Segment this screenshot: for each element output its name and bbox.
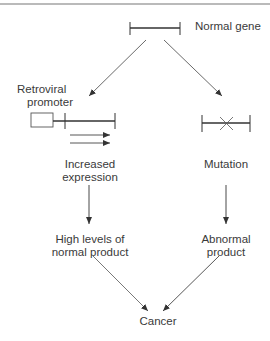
high-levels-label: High levels of normal product [52, 233, 129, 259]
increased-expression-label: Increased expression [62, 158, 118, 184]
cancer-label: Cancer [139, 315, 176, 328]
high-levels-line2: normal product [52, 246, 129, 259]
normal-gene-label: Normal gene [195, 20, 261, 33]
transcription-arrows-icon [70, 135, 110, 143]
increased-expression-line2: expression [62, 171, 118, 184]
mutation-label: Mutation [204, 158, 248, 171]
arrow-abnormal-to-cancer [163, 256, 219, 311]
high-levels-line1: High levels of [52, 233, 129, 246]
arrow-to-mutation [164, 40, 222, 96]
increased-expression-line1: Increased [62, 158, 118, 171]
retroviral-promoter-line1: Retroviral [17, 83, 73, 96]
retroviral-promoter-label: Retroviral promoter [17, 83, 73, 109]
mutated-gene-icon [202, 115, 250, 132]
normal-gene-icon [130, 22, 180, 35]
abnormal-product-line2: product [201, 246, 250, 259]
abnormal-product-line1: Abnormal [201, 233, 250, 246]
promoter-insertion-icon [31, 113, 115, 129]
abnormal-product-label: Abnormal product [201, 233, 250, 259]
arrow-high-to-cancer [93, 256, 148, 311]
arrow-to-promoter [89, 40, 146, 96]
retroviral-promoter-line2: promoter [17, 96, 73, 109]
